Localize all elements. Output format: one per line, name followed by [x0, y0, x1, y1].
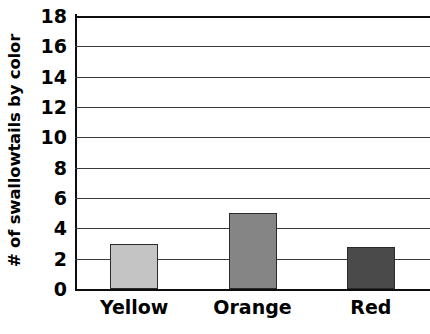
- y-tick-label: 12: [41, 98, 67, 117]
- x-axis-line: [75, 289, 430, 291]
- y-tick-label: 18: [41, 7, 67, 26]
- plot-area: [75, 16, 430, 289]
- bar: [110, 244, 158, 290]
- y-axis-title-text: # of swallowtails by color: [6, 33, 25, 266]
- bar: [347, 247, 395, 289]
- y-tick-label: 10: [41, 128, 67, 147]
- bar: [229, 213, 277, 289]
- y-tick-label: 2: [54, 249, 67, 268]
- x-category-label: Red: [350, 296, 391, 318]
- x-axis-category-labels: YellowOrangeRed: [75, 296, 430, 334]
- x-category-label: Orange: [213, 296, 291, 318]
- x-category-label: Yellow: [100, 296, 169, 318]
- bar-chart-figure: # of swallowtails by color 0246810121416…: [0, 0, 430, 334]
- y-tick-label: 0: [54, 280, 67, 299]
- y-tick-label: 14: [41, 67, 67, 86]
- y-tick-label: 16: [41, 37, 67, 56]
- y-tick-label: 4: [54, 219, 67, 238]
- bar-series: [75, 16, 430, 289]
- y-axis-tick-labels: 024681012141618: [30, 0, 72, 334]
- y-tick-label: 8: [54, 158, 67, 177]
- y-axis-title: # of swallowtails by color: [0, 0, 30, 300]
- y-tick-label: 6: [54, 189, 67, 208]
